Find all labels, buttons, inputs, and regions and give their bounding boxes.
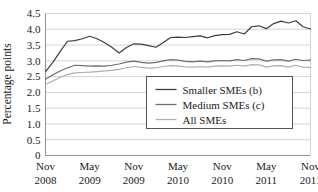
x-tick-month: Nov bbox=[301, 160, 318, 172]
y-tick-label: 2.5 bbox=[27, 70, 41, 82]
y-tick-label: 4.0 bbox=[27, 23, 41, 35]
y-tick-label: 1.0 bbox=[27, 118, 41, 130]
x-tick-month: May bbox=[168, 160, 189, 172]
x-tick-month: May bbox=[256, 160, 277, 172]
y-tick-label: 3.5 bbox=[27, 39, 41, 51]
y-tick-label: 4.5 bbox=[27, 7, 41, 19]
x-tick-year: 2011 bbox=[256, 174, 278, 186]
x-tick-year: 2011 bbox=[300, 174, 318, 186]
y-tick-label: 3.0 bbox=[27, 55, 41, 67]
legend-label-1: Medium SMEs (c) bbox=[183, 99, 265, 112]
x-tick-year: 2010 bbox=[211, 174, 234, 186]
x-tick-year: 2009 bbox=[123, 174, 146, 186]
line-chart: 00.51.01.52.02.53.03.54.04.5 Nov2008May2… bbox=[0, 0, 318, 192]
x-tick-month: Nov bbox=[36, 160, 55, 172]
x-tick-year: 2009 bbox=[79, 174, 102, 186]
y-tick-label: 0.5 bbox=[27, 134, 41, 146]
y-axis-title: Percentage points bbox=[1, 43, 14, 125]
legend-label-0: Smaller SMEs (b) bbox=[183, 84, 263, 97]
y-tick-label: 2.0 bbox=[27, 86, 41, 98]
x-tick-month: Nov bbox=[213, 160, 232, 172]
x-tick-year: 2010 bbox=[167, 174, 190, 186]
chart-legend: Smaller SMEs (b)Medium SMEs (c)All SMEs bbox=[147, 77, 293, 129]
x-tick-month: Nov bbox=[124, 160, 143, 172]
legend-label-2: All SMEs bbox=[183, 114, 227, 126]
chart-container: 00.51.01.52.02.53.03.54.04.5 Nov2008May2… bbox=[0, 0, 318, 192]
x-tick-year: 2008 bbox=[35, 174, 58, 186]
y-tick-label: 1.5 bbox=[27, 102, 41, 114]
x-tick-month: May bbox=[80, 160, 101, 172]
